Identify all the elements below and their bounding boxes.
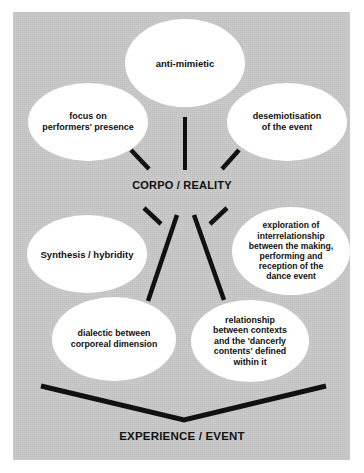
node-dialectic[interactable]: dialectic betweencorporeal dimension: [52, 297, 176, 381]
node-dialectic-label: dialectic betweencorporeal dimension: [65, 328, 164, 349]
base-label: EXPERIENCE / EVENT: [0, 430, 364, 442]
node-synthesis[interactable]: Synthesis / hybridity: [27, 215, 147, 293]
node-anti-mimietic[interactable]: anti-mimietic: [125, 19, 245, 107]
node-desemiotisation[interactable]: desemiotisationof the event: [227, 83, 347, 161]
node-focus-performers[interactable]: focus onperformers' presence: [28, 83, 148, 161]
figure-root: anti-mimietic focus onperformers' presen…: [0, 0, 364, 473]
node-exploration[interactable]: exploration ofinterrelationshipbetween t…: [232, 207, 350, 295]
node-anti-mimietic-label: anti-mimietic: [150, 58, 221, 69]
node-focus-performers-label: focus onperformers' presence: [36, 111, 140, 133]
node-relationship-label: relationshipbetween contextsand the 'dan…: [207, 315, 293, 367]
hub-label: CORPO / REALITY: [0, 179, 364, 191]
node-desemiotisation-label: desemiotisationof the event: [247, 111, 328, 133]
node-synthesis-label: Synthesis / hybridity: [35, 249, 140, 260]
node-exploration-label: exploration ofinterrelationshipbetween t…: [243, 220, 340, 281]
node-relationship[interactable]: relationshipbetween contextsand the 'dan…: [191, 300, 309, 382]
